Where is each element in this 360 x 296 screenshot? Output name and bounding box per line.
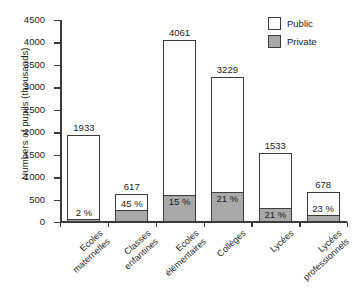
x-axis-tick: [251, 222, 252, 227]
y-axis-tick: [54, 200, 60, 201]
bar-total-label: 4061: [169, 27, 190, 38]
y-axis-tick-label: 3500: [9, 59, 45, 70]
y-axis-tick-label: 1500: [9, 149, 45, 160]
y-axis-tick-label: 2500: [9, 104, 45, 115]
legend-swatch-private-icon: [268, 35, 281, 48]
y-axis-tick: [54, 65, 60, 66]
y-axis-tick-label: 0: [9, 216, 45, 227]
y-axis-tick-label: 4500: [9, 14, 45, 25]
y-axis-tick: [54, 155, 60, 156]
y-axis-tick-label: 4000: [9, 36, 45, 47]
bar-private-percent-label: 2 %: [76, 207, 92, 218]
bar-private-percent-label: 45 %: [121, 198, 143, 209]
y-axis-tick: [54, 110, 60, 111]
legend-item-public: Public: [268, 17, 317, 30]
x-axis-tick: [60, 222, 61, 227]
bar-total-label: 3229: [217, 64, 238, 75]
bar-total-label: 1933: [73, 122, 94, 133]
x-axis-tick: [108, 222, 109, 227]
legend-label-private: Private: [287, 36, 317, 47]
x-axis-tick: [347, 222, 348, 227]
y-axis-tick: [54, 87, 60, 88]
y-axis-tick: [54, 20, 60, 21]
bar-total-label: 678: [315, 179, 331, 190]
y-axis-tick-label: 3000: [9, 81, 45, 92]
bar-private-percent-label: 21 %: [217, 193, 239, 204]
y-axis-line: [60, 20, 62, 222]
y-axis-tick: [54, 42, 60, 43]
x-axis-tick: [156, 222, 157, 227]
legend-item-private: Private: [268, 35, 317, 48]
legend: Public Private: [268, 17, 317, 53]
y-axis-tick-label: 2000: [9, 126, 45, 137]
y-axis-tick: [54, 177, 60, 178]
bar-total-label: 1533: [265, 140, 286, 151]
x-axis-tick: [299, 222, 300, 227]
bar-private-percent-label: 21 %: [264, 209, 286, 220]
y-axis-tick: [54, 132, 60, 133]
bar-3: [163, 40, 196, 222]
bar-total-label: 617: [124, 181, 140, 192]
bar-private-percent-label: 15 %: [169, 196, 191, 207]
legend-swatch-public-icon: [268, 17, 281, 30]
y-axis-tick-label: 1000: [9, 171, 45, 182]
bar-segment-private: [67, 219, 100, 222]
x-axis-tick: [204, 222, 205, 227]
y-axis-tick-label: 500: [9, 194, 45, 205]
bar-segment-private: [307, 215, 340, 222]
bar-chart-figure: Numbers of pupils (thousands) 0500100015…: [0, 0, 360, 296]
legend-label-public: Public: [287, 18, 313, 29]
bar-segment-private: [115, 210, 148, 222]
bar-private-percent-label: 23 %: [312, 203, 334, 214]
